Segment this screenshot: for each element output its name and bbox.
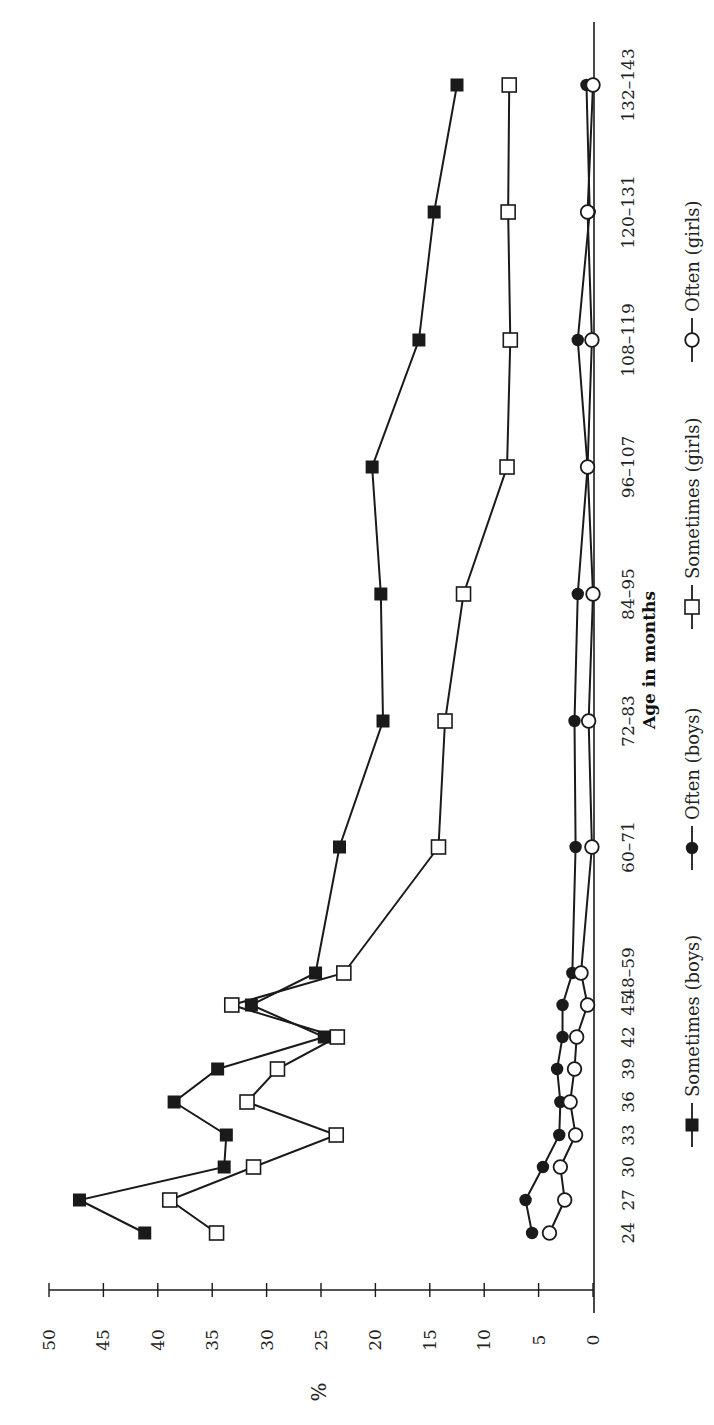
data-point-marker xyxy=(569,1128,583,1142)
data-point-marker xyxy=(73,1194,86,1207)
value-tick-label: 40 xyxy=(148,1329,168,1351)
category-label: 33 xyxy=(618,1124,638,1146)
data-point-marker xyxy=(526,1227,538,1239)
data-point-marker xyxy=(240,1095,254,1109)
data-point-marker xyxy=(501,205,515,219)
data-point-marker xyxy=(558,1193,572,1207)
category-label: 48–59 xyxy=(618,947,638,999)
data-point-marker xyxy=(438,714,452,728)
category-label: 84–95 xyxy=(618,568,638,620)
data-point-marker xyxy=(211,1063,224,1076)
legend-item: Often (boys) xyxy=(682,708,703,870)
value-tick-label: 50 xyxy=(39,1329,59,1351)
data-point-marker xyxy=(574,966,588,980)
data-point-marker xyxy=(502,78,516,92)
legend-marker-icon xyxy=(685,600,699,614)
data-point-marker xyxy=(585,840,599,854)
data-point-marker xyxy=(220,1129,233,1142)
data-point-marker xyxy=(333,841,346,854)
data-point-marker xyxy=(366,461,379,474)
data-point-marker xyxy=(225,998,239,1012)
data-point-marker xyxy=(374,588,387,601)
data-point-marker xyxy=(210,1226,224,1240)
value-tick-label: 10 xyxy=(474,1329,494,1351)
category-label: 27 xyxy=(618,1189,638,1211)
legend-marker-icon xyxy=(686,842,698,854)
data-point-marker xyxy=(503,333,517,347)
series-markers xyxy=(73,78,600,1240)
value-tick-label: 35 xyxy=(202,1329,222,1351)
legend-item: Often (girls) xyxy=(682,200,703,362)
data-point-marker xyxy=(553,1129,565,1141)
data-point-marker xyxy=(568,715,580,727)
data-point-marker xyxy=(245,999,258,1012)
data-point-marker xyxy=(519,1194,531,1206)
legend: Sometimes (boys)Often (boys)Sometimes (g… xyxy=(682,200,703,1147)
data-point-marker xyxy=(556,999,568,1011)
category-label: 108–119 xyxy=(618,303,638,376)
data-point-marker xyxy=(572,588,584,600)
value-axis-title: % xyxy=(307,1382,331,1401)
data-point-marker xyxy=(570,1030,584,1044)
rotated-line-chart: 05101520253035404550 242730333639424548–… xyxy=(0,0,714,1425)
data-point-marker xyxy=(138,1227,151,1240)
series-line-0 xyxy=(79,85,457,1233)
data-point-marker xyxy=(451,79,464,92)
data-point-marker xyxy=(563,1095,577,1109)
value-axis: 05101520253035404550 xyxy=(39,1283,603,1351)
category-label: 36 xyxy=(618,1091,638,1113)
category-label: 120–131 xyxy=(618,175,638,248)
data-point-marker xyxy=(586,78,600,92)
legend-label: Sometimes (girls) xyxy=(682,418,703,579)
legend-marker-icon xyxy=(686,1119,699,1132)
data-point-marker xyxy=(457,587,471,601)
data-point-marker xyxy=(428,206,441,219)
data-point-marker xyxy=(572,334,584,346)
data-point-marker xyxy=(337,966,351,980)
series-line-2 xyxy=(170,85,511,1233)
category-axis: 242730333639424548–5960–7172–8384–9596–1… xyxy=(594,22,638,1313)
category-label: 30 xyxy=(618,1156,638,1178)
data-point-marker xyxy=(582,714,596,728)
data-point-marker xyxy=(309,967,322,980)
value-tick-label: 45 xyxy=(93,1329,113,1351)
value-tick-label: 0 xyxy=(583,1335,603,1346)
data-point-marker xyxy=(554,1160,568,1174)
legend-item: Sometimes (girls) xyxy=(682,418,703,629)
data-point-marker xyxy=(329,1128,343,1142)
data-point-marker xyxy=(412,334,425,347)
legend-label: Sometimes (boys) xyxy=(682,935,703,1097)
category-label: 24 xyxy=(618,1222,638,1244)
data-point-marker xyxy=(270,1062,284,1076)
data-point-marker xyxy=(581,205,595,219)
series-lines xyxy=(79,85,593,1233)
data-point-marker xyxy=(163,1193,177,1207)
value-tick-label: 20 xyxy=(365,1329,385,1351)
data-point-marker xyxy=(432,840,446,854)
data-point-marker xyxy=(218,1161,231,1174)
legend-label: Often (girls) xyxy=(682,200,703,312)
data-point-marker xyxy=(330,1030,344,1044)
value-tick-label: 25 xyxy=(311,1329,331,1351)
value-tick-label: 15 xyxy=(420,1329,440,1351)
value-tick-label: 5 xyxy=(529,1335,549,1346)
data-point-marker xyxy=(543,1226,557,1240)
data-point-marker xyxy=(318,1031,331,1044)
category-label: 72–83 xyxy=(618,695,638,747)
series-line-1 xyxy=(526,85,590,1233)
data-point-marker xyxy=(168,1096,181,1109)
legend-item: Sometimes (boys) xyxy=(682,935,703,1147)
category-label: 42 xyxy=(618,1026,638,1048)
value-tick-label: 30 xyxy=(257,1329,277,1351)
data-point-marker xyxy=(568,1062,582,1076)
category-label: 39 xyxy=(618,1058,638,1080)
data-point-marker xyxy=(247,1160,261,1174)
data-point-marker xyxy=(586,587,600,601)
category-label: 132–143 xyxy=(618,48,638,121)
data-point-marker xyxy=(556,1031,568,1043)
data-point-marker xyxy=(537,1161,549,1173)
category-label: 96–107 xyxy=(618,436,638,499)
category-label: 60–71 xyxy=(618,821,638,873)
category-axis-title: Age in months xyxy=(639,591,659,730)
data-point-marker xyxy=(500,460,514,474)
